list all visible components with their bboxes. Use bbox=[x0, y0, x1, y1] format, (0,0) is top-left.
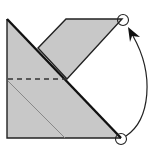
fold-arrow-curve bbox=[126, 36, 147, 136]
circle-start-icon bbox=[116, 134, 127, 145]
arrowhead-icon bbox=[128, 27, 140, 42]
origami-diagram: Valley fold: bring bottom-right corner u… bbox=[0, 0, 158, 157]
